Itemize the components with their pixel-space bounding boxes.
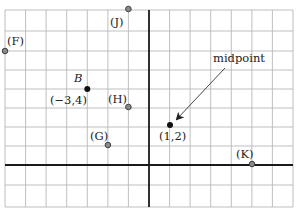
- point-label: (H): [108, 92, 127, 106]
- point-marker: [105, 142, 111, 148]
- point-marker: [249, 161, 255, 167]
- point-G: (G): [90, 129, 111, 148]
- point-marker: [167, 122, 173, 128]
- point-marker: [126, 6, 132, 12]
- point-marker: [2, 48, 8, 54]
- point-label: (F): [7, 34, 24, 48]
- point-midpoint: (1,2): [159, 122, 186, 143]
- point-marker: [84, 86, 90, 92]
- point-label: (K): [236, 147, 254, 161]
- point-label: (J): [110, 15, 124, 29]
- point-coordinates: (1,2): [159, 129, 186, 143]
- midpoint-annotation: midpoint: [213, 51, 265, 65]
- point-label: B: [73, 71, 82, 85]
- point-K: (K): [236, 147, 255, 167]
- point-label: (G): [90, 129, 108, 143]
- coordinate-plane: midpoint (F) (J) B (−3,4) (H) (G) (1,2) …: [0, 0, 297, 213]
- point-H: (H): [108, 92, 131, 110]
- midpoint-arrow: [177, 68, 225, 119]
- point-coordinates: (−3,4): [50, 93, 87, 107]
